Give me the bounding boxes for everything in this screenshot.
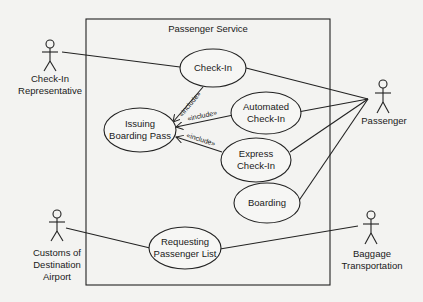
stick-figure-icon (49, 210, 65, 241)
stick-figure-icon (363, 211, 379, 244)
svg-text:Customs of: Customs of (33, 247, 81, 258)
svg-text:Destination: Destination (33, 259, 81, 270)
stick-figure-icon (375, 80, 391, 113)
svg-text:Baggage: Baggage (353, 248, 391, 259)
svg-text:Boarding: Boarding (248, 197, 286, 208)
use-case-diagram: Passenger Service «include» «include» «i… (0, 0, 423, 302)
assoc-passenger-express (290, 99, 368, 152)
svg-text:Boarding Pass: Boarding Pass (109, 130, 171, 141)
use-case-checkin: Check-In (180, 49, 246, 87)
use-case-requesting-passenger-list: Requesting Passenger List (149, 227, 221, 269)
svg-text:Check-In: Check-In (194, 62, 232, 73)
svg-text:Express: Express (239, 148, 274, 159)
actor-passenger: Passenger (361, 80, 406, 126)
svg-text:Representative: Representative (18, 85, 82, 96)
svg-text:Passenger List: Passenger List (154, 248, 217, 259)
assoc-customs-requesting (66, 228, 150, 248)
stick-figure-icon (42, 40, 58, 71)
system-name: Passenger Service (168, 23, 248, 34)
svg-text:Issuing: Issuing (125, 118, 155, 129)
svg-text:Check-In: Check-In (247, 113, 285, 124)
svg-text:Passenger: Passenger (361, 115, 406, 126)
svg-text:Check-In: Check-In (31, 73, 69, 84)
use-case-express-checkin: Express Check-In (221, 138, 291, 182)
use-case-boarding: Boarding (234, 183, 300, 223)
svg-text:Requesting: Requesting (161, 236, 209, 247)
assoc-baggage-requesting (220, 226, 358, 249)
assoc-checkinrep-checkin (62, 52, 180, 67)
include-dependencies: «include» «include» «include» (173, 87, 238, 152)
actor-baggage-transportation: Baggage Transportation (342, 211, 403, 271)
svg-text:Automated: Automated (243, 101, 289, 112)
assoc-passenger-boarding (298, 99, 368, 202)
svg-text:Transportation: Transportation (342, 260, 403, 271)
actor-checkin-representative: Check-In Representative (18, 40, 82, 96)
svg-text:Check-In: Check-In (237, 160, 275, 171)
include-label-automated: «include» (187, 109, 218, 122)
use-case-automated-checkin: Automated Check-In (231, 92, 301, 134)
actor-customs-destination-airport: Customs of Destination Airport (33, 210, 81, 282)
svg-text:Airport: Airport (43, 271, 71, 282)
use-case-issuing-boarding-pass: Issuing Boarding Pass (104, 108, 176, 152)
